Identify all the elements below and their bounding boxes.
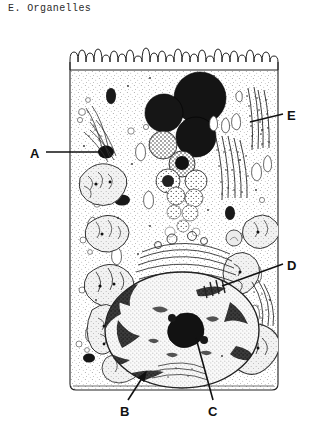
nucleolus-edge-a <box>168 314 176 322</box>
figure-root: E. Organelles <box>0 0 317 430</box>
lysosome-small-5 <box>177 220 189 232</box>
vacuole-right <box>226 230 242 246</box>
nucleus <box>105 272 259 388</box>
label-B: B <box>120 404 129 419</box>
lysosome-small-3 <box>167 205 181 219</box>
lysosome-core-1 <box>175 156 189 170</box>
granule-2 <box>106 88 116 104</box>
lysosome-core-2 <box>162 175 174 187</box>
label-A: A <box>30 146 40 161</box>
cell-diagram: A B C D E <box>0 0 317 430</box>
label-E: E <box>287 108 296 123</box>
lysosome-dark-2 <box>145 94 183 132</box>
microvilli-border <box>70 48 278 70</box>
nucleolus-edge-b <box>200 336 208 344</box>
label-C: C <box>208 404 218 419</box>
vesicle-faint-1 <box>165 227 175 237</box>
lysosome-small-1 <box>167 187 185 205</box>
lysosome-small-2 <box>185 189 203 207</box>
lysosome-mid-3 <box>185 170 207 192</box>
lysosome-small-4 <box>182 205 198 221</box>
label-D: D <box>287 258 296 273</box>
granule-5 <box>83 354 95 363</box>
granule-4 <box>225 206 235 220</box>
apical-granules <box>114 41 254 49</box>
